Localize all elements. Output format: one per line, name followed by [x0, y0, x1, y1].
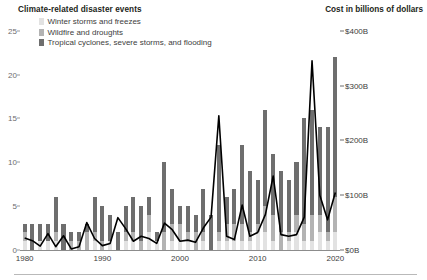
- y-axis-tick-label: 15: [8, 114, 17, 123]
- plot-inner: 0510152025$0B$100B$200B$300B$400B1980199…: [20, 22, 340, 250]
- y-axis-tick-label: 20: [8, 70, 17, 79]
- y2-axis-tick-label: $400B: [345, 26, 368, 35]
- y2-axis-tick-label: $0B: [345, 246, 359, 255]
- y2-axis-tick-label: $300B: [345, 81, 368, 90]
- y2-axis-tick: [340, 85, 344, 86]
- cost-line-series: [20, 22, 340, 250]
- x-axis-line: [20, 250, 340, 251]
- x-axis-tick-label: 1990: [93, 254, 111, 263]
- x-axis-tick-label: 1980: [16, 254, 34, 263]
- y2-axis-tick: [340, 30, 344, 31]
- y-axis-tick-label: 25: [8, 26, 17, 35]
- y2-axis-tick: [340, 195, 344, 196]
- page-title: Climate-related disaster events: [18, 5, 142, 14]
- x-axis-tick-label: 2020: [326, 254, 344, 263]
- y2-axis-tick-label: $100B: [345, 191, 368, 200]
- right-axis-title: Cost in billions of dollars: [325, 5, 423, 14]
- y-axis-tick-label: 10: [8, 158, 17, 167]
- y2-axis-tick: [340, 250, 344, 251]
- x-axis-tick-label: 2010: [249, 254, 267, 263]
- cost-line-path: [25, 61, 336, 249]
- chart-root: Climate-related disaster events Cost in …: [0, 0, 427, 280]
- x-axis-tick-label: 2000: [171, 254, 189, 263]
- y2-axis-tick: [340, 140, 344, 141]
- y2-axis-tick-label: $200B: [345, 136, 368, 145]
- footer-divider: [14, 274, 417, 275]
- plot-area: 0510152025$0B$100B$200B$300B$400B1980199…: [20, 22, 340, 250]
